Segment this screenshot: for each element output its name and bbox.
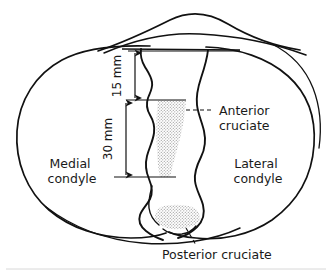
label-anterior-cruciate-line2: cruciate [219, 118, 270, 133]
posterior-cruciate-footprint [155, 205, 200, 229]
label-anterior-cruciate-line1: Anterior [219, 103, 270, 118]
dimension-label-30mm: 30 mm [101, 118, 115, 160]
anterior-cruciate-footprint [156, 100, 186, 177]
label-anterior-cruciate: Anterior cruciate [219, 103, 273, 133]
anterior-rim-line [122, 49, 240, 50]
label-medial-condyle: Medial condyle [48, 156, 97, 186]
label-lateral-condyle: Lateral condyle [234, 156, 283, 186]
label-posterior-cruciate: Posterior cruciate [162, 247, 272, 262]
label-medial-condyle-line2: condyle [48, 171, 97, 186]
lateral-secondary-contour [272, 44, 320, 148]
cruciate-footprints-group [155, 100, 200, 229]
label-lateral-condyle-line2: condyle [234, 171, 283, 186]
label-medial-condyle-line1: Medial [50, 156, 91, 171]
label-lateral-condyle-line1: Lateral [234, 156, 278, 171]
tibial-plateau-diagram: 15 mm 30 mm Medial condyle Lateral condy… [0, 0, 332, 271]
dimension-label-15mm: 15 mm [110, 55, 124, 97]
